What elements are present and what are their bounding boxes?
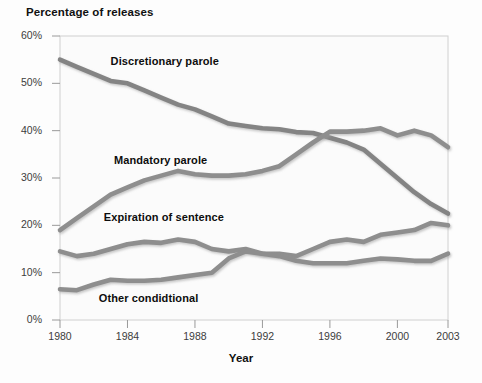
x-axis-tick-label: 1984 — [116, 330, 139, 342]
y-axis-tick-label: 60% — [8, 29, 42, 41]
series-label-0: Discretionary parole — [111, 55, 219, 67]
x-axis-tick-label: 2003 — [436, 330, 459, 342]
y-axis-tick-label: 30% — [8, 171, 42, 183]
series-label-3: Other condidtional — [99, 292, 199, 304]
chart-container: Percentage of releases 0%10%20%30%40%50%… — [0, 0, 482, 383]
x-axis-tick-label: 1996 — [318, 330, 341, 342]
series-label-1: Mandatory parole — [114, 154, 207, 166]
x-axis-tick-label: 2000 — [386, 330, 409, 342]
y-axis-tick-label: 40% — [8, 124, 42, 136]
y-axis-tick-label: 50% — [8, 76, 42, 88]
axis-frame — [60, 36, 448, 320]
chart-plot-area — [0, 0, 482, 383]
x-axis-title: Year — [0, 352, 482, 364]
series-label-2: Expiration of sentence — [104, 211, 224, 223]
x-axis-tick-label: 1988 — [183, 330, 206, 342]
y-axis-tick-label: 20% — [8, 218, 42, 230]
x-axis-tick-label: 1992 — [251, 330, 274, 342]
x-axis-tick-label: 1980 — [48, 330, 71, 342]
y-axis-tick-label: 0% — [8, 313, 42, 325]
y-axis-tick-label: 10% — [8, 266, 42, 278]
